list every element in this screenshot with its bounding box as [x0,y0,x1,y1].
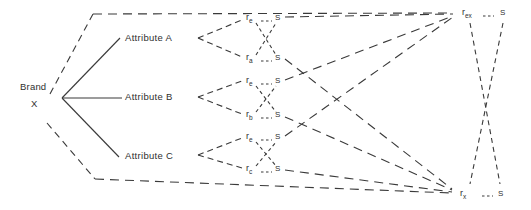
rating-re-b: re [246,76,253,85]
scale-s-b2: S [275,111,280,119]
line-c-s-to-rex [285,17,453,136]
line-top-to-rex [93,13,453,14]
rating-rx: rx [460,189,466,198]
line-fork-c-rc [198,155,242,168]
cross-a-2 [256,23,276,55]
brand-label-line1: Brand [20,82,46,92]
line-fork-b-rb [198,97,242,114]
line-brand-top-rise [50,14,93,94]
line-fork-c-re [198,138,242,155]
rating-subscript: ex [465,12,472,19]
cross-a-1 [256,23,276,55]
scale-s-a2: S [275,54,280,62]
rating-subscript: c [249,168,252,175]
scale-s-c1: S [275,133,280,141]
line-b-s-to-rx [285,117,452,190]
scale-s-a1: S [275,14,280,22]
rating-re-c: re [246,132,253,141]
rating-subscript: b [249,114,253,121]
scale-s-overall-bottom: S [498,190,503,198]
rating-rex: rex [462,8,472,17]
brand-label-line2: X [31,99,38,109]
rating-re-a: re [246,13,253,22]
line-brand-attribute-a [62,38,120,98]
attribute-a-label: Attribute A [125,33,172,43]
scale-s-b1: S [275,77,280,85]
scale-s-c2: S [275,165,280,173]
line-a-s-to-rex [285,14,453,17]
line-brand-attribute-c [62,98,119,157]
line-fork-a-ra [198,38,242,57]
line-bottom-to-rx [95,179,452,193]
rating-subscript: e [249,136,253,143]
line-a-s-to-rx [285,59,452,189]
cross-right-s-rx [470,23,503,184]
attribute-c-label: Attribute C [125,151,173,161]
rating-rc: rc [246,164,252,173]
rating-rb: rb [246,110,253,119]
attribute-b-label: Attribute B [125,92,173,102]
connector-lines [0,0,531,210]
scale-s-overall-top: S [500,9,505,17]
line-brand-bottom-drop [47,123,95,179]
rating-subscript: e [249,17,253,24]
rating-subscript: e [249,80,253,87]
line-fork-a-re [198,20,242,38]
path-diagram: Brand X Attribute A Attribute B Attribut… [0,0,531,210]
line-b-s-to-rex [285,16,453,80]
rating-subscript: x [463,193,466,200]
rating-ra: ra [246,53,253,62]
line-fork-b-re [198,81,242,97]
rating-subscript: a [249,57,253,64]
line-c-s-to-rx [285,170,452,192]
